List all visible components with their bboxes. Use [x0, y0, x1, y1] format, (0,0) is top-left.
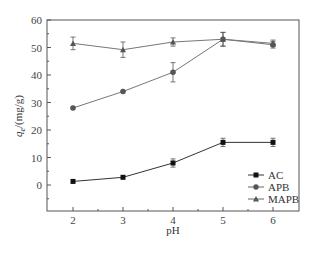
circle-marker-icon	[70, 105, 76, 111]
legend: AC APB MAPB	[248, 169, 299, 205]
circle-marker-icon	[170, 69, 176, 75]
svg-text:MAPB: MAPB	[268, 193, 299, 205]
x-axis-title: pH	[166, 224, 180, 236]
svg-text:APB: APB	[268, 181, 289, 193]
x-tick-label: 6	[270, 214, 276, 226]
square-marker-icon	[171, 161, 176, 166]
y-axis-title: qe/(mg/g)	[12, 95, 27, 137]
circle-marker-icon	[253, 184, 258, 189]
plot-frame	[47, 20, 299, 211]
square-marker-icon	[221, 140, 226, 145]
y-tick-label: 0	[37, 179, 43, 191]
y-tick-label: 20	[31, 124, 43, 136]
x-tick-label: 3	[120, 214, 126, 226]
chart: 0102030405060 23456 pH qe/(mg/g) AC APB …	[0, 0, 314, 253]
x-tick-label: 2	[70, 214, 76, 226]
y-axis: 0102030405060	[31, 14, 51, 199]
y-tick-label: 30	[31, 97, 43, 109]
series-mapb	[70, 32, 276, 57]
data-series	[70, 32, 276, 184]
square-marker-icon	[271, 140, 276, 145]
legend-item-mapb: MAPB	[248, 193, 299, 205]
square-marker-icon	[71, 179, 76, 184]
circle-marker-icon	[120, 89, 126, 95]
x-tick-label: 5	[220, 214, 226, 226]
y-tick-label: 60	[31, 14, 43, 26]
figure-caption-faded	[40, 238, 310, 248]
square-marker-icon	[254, 173, 259, 178]
triangle-marker-icon	[70, 40, 76, 46]
square-marker-icon	[121, 175, 126, 180]
svg-text:AC: AC	[268, 169, 283, 181]
legend-item-ac: AC	[248, 169, 283, 181]
y-tick-label: 50	[31, 42, 43, 54]
legend-item-apb: APB	[248, 181, 289, 193]
y-tick-label: 40	[31, 69, 43, 81]
series-ac	[71, 138, 276, 184]
y-tick-label: 10	[31, 152, 43, 164]
